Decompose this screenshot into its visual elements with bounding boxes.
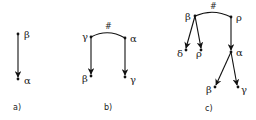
node-label-rho: ρ <box>236 12 242 23</box>
node-dot <box>90 36 93 39</box>
panel-a: β α a) <box>13 29 31 112</box>
node-dot <box>230 16 233 19</box>
node-dot <box>194 15 197 18</box>
node-label-rho: ρ <box>196 48 202 59</box>
node-label-gamma: γ <box>241 84 247 95</box>
link-label-hash: # <box>105 22 112 31</box>
node-dot <box>17 78 20 81</box>
panel-caption-b: b) <box>104 103 112 112</box>
node-label-alpha: α <box>130 33 137 44</box>
node-dot <box>185 49 188 52</box>
panel-b: # γ α β γ b) <box>82 22 137 112</box>
node-dot <box>124 76 127 79</box>
node-label-gamma: γ <box>130 74 136 85</box>
panel-caption-a: a) <box>13 103 21 112</box>
node-dot <box>90 75 93 78</box>
link-label-hash: # <box>210 2 217 11</box>
node-label-delta: δ <box>177 48 183 59</box>
node-label-beta: β <box>82 73 88 84</box>
node-dot <box>17 33 20 36</box>
node-label-alpha: α <box>236 47 243 58</box>
node-dot <box>124 37 127 40</box>
node-dot <box>230 51 233 54</box>
node-dot <box>237 86 240 89</box>
node-label-beta: β <box>24 29 30 40</box>
arrow-alpha-to-beta <box>216 52 231 85</box>
panel-caption-c: c) <box>205 104 213 113</box>
link-arc <box>91 33 125 38</box>
node-dot <box>214 86 217 89</box>
diagram-canvas: β α a) # γ α β γ b) # β ρ δ <box>0 0 256 120</box>
node-label-beta: β <box>185 11 191 22</box>
link-arc <box>195 12 231 17</box>
node-label-gamma: γ <box>82 31 88 42</box>
panel-c: # β ρ δ ρ α β γ c) <box>177 2 247 113</box>
node-label-alpha: α <box>24 75 31 86</box>
arrow-beta-to-rho <box>195 16 201 48</box>
node-label-beta: β <box>206 84 212 95</box>
